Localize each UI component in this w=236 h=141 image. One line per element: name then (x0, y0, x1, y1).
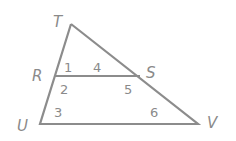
vertex-label-v: V (207, 114, 219, 132)
triangle-figure: T R U S V 1 4 2 3 5 6 (0, 0, 236, 141)
angle-label-1: 1 (64, 60, 72, 75)
angle-label-5: 5 (124, 82, 132, 97)
angle-label-6: 6 (150, 105, 158, 120)
angle-label-2: 2 (60, 82, 68, 97)
angle-label-4: 4 (93, 60, 101, 75)
vertex-label-t: T (53, 13, 64, 31)
vertex-label-s: S (146, 64, 156, 82)
vertex-label-u: U (17, 117, 28, 135)
vertex-label-r: R (32, 67, 42, 85)
angle-label-3: 3 (54, 105, 62, 120)
geometry-diagram: T R U S V 1 4 2 3 5 6 (0, 0, 236, 141)
